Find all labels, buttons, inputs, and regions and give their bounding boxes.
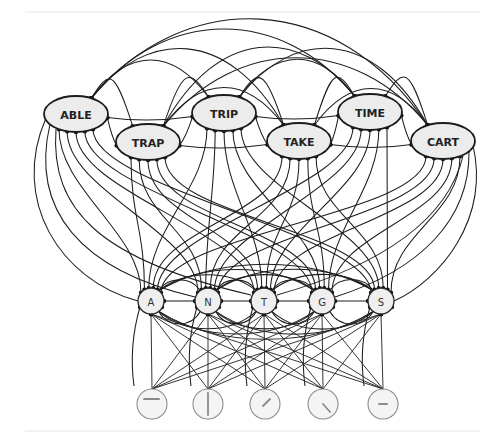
network-diagram: ABLETRAPTRIPTAKETIMECART ANTGS — [0, 0, 500, 444]
word-word-arc — [401, 116, 411, 145]
word-node-take: TAKE — [267, 123, 331, 159]
feature-letter-link — [151, 314, 152, 389]
letter-label: S — [378, 297, 384, 308]
word-word-arc — [255, 116, 338, 120]
word-word-arc — [255, 117, 267, 145]
feature-letter-link — [381, 314, 383, 389]
letter-label: A — [148, 297, 155, 308]
letter-node-t: T — [251, 288, 277, 314]
letter-letter-arc — [216, 280, 256, 291]
word-word-connections — [34, 19, 476, 301]
letter-label: T — [260, 297, 268, 308]
side-arc — [394, 145, 476, 301]
word-word-arc — [330, 145, 411, 148]
letter-node-s: S — [368, 288, 394, 314]
letter-label: G — [318, 297, 326, 308]
word-word-arc — [179, 145, 267, 149]
feature-node-horizontal-mid — [368, 389, 398, 419]
word-label: CART — [427, 136, 460, 149]
letter-word-link — [387, 127, 388, 290]
feature-layer — [137, 389, 398, 419]
word-node-able: ABLE — [44, 96, 108, 132]
word-label: TIME — [355, 107, 385, 120]
word-label: TAKE — [283, 136, 314, 149]
letter-word-link — [161, 156, 426, 292]
letter-word-link — [391, 156, 460, 292]
feature-letter-link — [264, 314, 323, 389]
feature-node-diagonal-right — [250, 389, 280, 419]
word-label: ABLE — [60, 109, 91, 122]
word-node-cart: CART — [411, 123, 475, 159]
feature-node-horizontal-top — [137, 389, 167, 419]
letter-side-arc — [132, 307, 140, 386]
word-node-trap: TRAP — [116, 124, 180, 160]
letter-label: N — [204, 297, 211, 308]
word-label: TRIP — [210, 108, 238, 121]
feature-node-diagonal-left — [308, 389, 338, 419]
feature-circle — [137, 389, 167, 419]
word-layer: ABLETRAPTRIPTAKETIMECART — [44, 94, 475, 160]
word-label: TRAP — [132, 137, 165, 150]
letter-word-link — [274, 159, 443, 293]
word-word-arc — [107, 117, 192, 121]
letter-word-link — [131, 157, 144, 290]
feature-node-vertical — [193, 389, 223, 419]
letter-node-a: A — [138, 288, 164, 314]
letter-word-link — [206, 130, 215, 288]
letter-node-g: G — [309, 288, 335, 314]
letter-node-n: N — [195, 288, 221, 314]
word-node-time: TIME — [338, 94, 402, 130]
word-node-trip: TRIP — [192, 95, 256, 131]
word-word-arc — [179, 117, 192, 146]
